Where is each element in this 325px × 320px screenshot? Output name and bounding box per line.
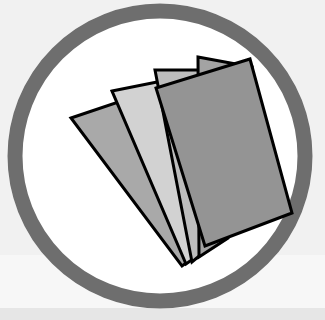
- documents-stack-icon: [0, 0, 325, 320]
- background-lower-strip: [0, 308, 325, 320]
- icon-canvas: Documents Stack Icon A fanned stack of f…: [0, 0, 325, 320]
